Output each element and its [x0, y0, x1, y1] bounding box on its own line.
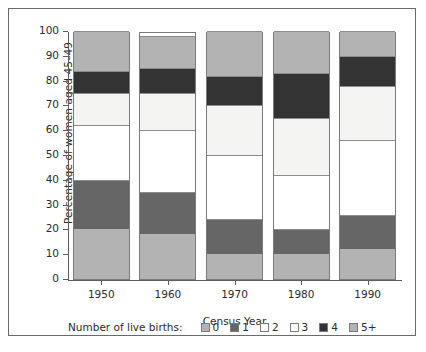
y-tick-label: 80	[46, 74, 59, 86]
legend-label: 4	[331, 322, 338, 333]
stacked-bar[interactable]	[139, 32, 196, 280]
bar-segment[interactable]	[74, 71, 129, 93]
y-tick-label: 20	[46, 222, 59, 234]
bar-segment[interactable]	[340, 56, 395, 86]
x-tick	[368, 280, 369, 285]
bar-segment[interactable]	[274, 118, 329, 175]
bar-segment[interactable]	[207, 105, 262, 155]
bar-segment[interactable]	[340, 249, 395, 279]
bar-segment[interactable]	[74, 93, 129, 125]
y-tick-label: 70	[46, 98, 59, 110]
legend-swatch	[230, 323, 239, 332]
stacked-bar[interactable]	[273, 32, 330, 280]
bar-segment[interactable]	[140, 130, 195, 192]
x-tick-label: 1990	[338, 288, 398, 300]
bar-segment[interactable]	[140, 234, 195, 279]
bar-segment[interactable]	[207, 155, 262, 219]
stacked-bar[interactable]	[73, 32, 130, 280]
y-tick-label: 30	[46, 198, 59, 210]
bar-segment[interactable]	[274, 73, 329, 118]
x-tick-label: 1960	[138, 288, 198, 300]
bar-segment[interactable]	[274, 175, 329, 230]
x-tick	[101, 280, 102, 285]
y-tick-label: 50	[46, 148, 59, 160]
legend-swatch	[201, 323, 210, 332]
y-tick-label: 90	[46, 49, 59, 61]
legend-label: 5+	[361, 322, 376, 333]
legend-swatch	[260, 323, 269, 332]
bar-segment[interactable]	[274, 31, 329, 73]
legend-item[interactable]: 2	[260, 322, 279, 333]
bar-segment[interactable]	[207, 219, 262, 254]
x-tick	[235, 280, 236, 285]
bar-segment[interactable]	[207, 31, 262, 76]
x-tick	[301, 280, 302, 285]
legend-item[interactable]: 1	[230, 322, 249, 333]
y-tick-label: 100	[39, 24, 59, 36]
x-tick	[168, 280, 169, 285]
bar-segment[interactable]	[140, 93, 195, 130]
bars-layer	[68, 32, 401, 280]
y-tick-label: 60	[46, 123, 59, 135]
legend-label: 3	[302, 322, 309, 333]
bar-segment[interactable]	[74, 180, 129, 230]
bar-segment[interactable]	[340, 215, 395, 250]
bar-segment[interactable]	[140, 36, 195, 68]
legend-item[interactable]: 3	[290, 322, 309, 333]
bar-segment[interactable]	[207, 254, 262, 279]
stacked-bar[interactable]	[206, 32, 263, 280]
bar-segment[interactable]	[74, 31, 129, 71]
legend-item[interactable]: 4	[319, 322, 338, 333]
bar-segment[interactable]	[140, 68, 195, 93]
bar-group[interactable]	[73, 32, 130, 280]
bar-group[interactable]	[339, 32, 396, 280]
bar-segment[interactable]	[74, 125, 129, 180]
bar-group[interactable]	[206, 32, 263, 280]
legend-items: 012345+	[201, 322, 377, 333]
chart-container: Percentage of women aged 45–49 010203040…	[0, 0, 426, 352]
bar-segment[interactable]	[207, 76, 262, 106]
stacked-bar[interactable]	[339, 32, 396, 280]
legend-item[interactable]: 0	[201, 322, 220, 333]
x-tick-label: 1950	[71, 288, 131, 300]
bar-segment[interactable]	[74, 229, 129, 279]
legend-label: 2	[272, 322, 279, 333]
bar-group[interactable]	[139, 32, 196, 280]
bar-group[interactable]	[273, 32, 330, 280]
legend-label: 1	[242, 322, 249, 333]
legend-title: Number of live births:	[68, 321, 183, 333]
bar-segment[interactable]	[274, 229, 329, 254]
y-tick-label: 0	[52, 272, 59, 284]
legend: Number of live births: 012345+	[68, 321, 413, 333]
legend-swatch	[319, 323, 328, 332]
bar-segment[interactable]	[340, 31, 395, 56]
x-tick-label: 1980	[271, 288, 331, 300]
y-tick-label: 10	[46, 247, 59, 259]
y-tick-label: 40	[46, 173, 59, 185]
bar-segment[interactable]	[274, 254, 329, 279]
x-tick-label: 1970	[205, 288, 265, 300]
legend-item[interactable]: 5+	[349, 322, 376, 333]
legend-label: 0	[213, 322, 220, 333]
bar-segment[interactable]	[140, 192, 195, 234]
figure-frame: Percentage of women aged 45–49 010203040…	[8, 8, 416, 336]
legend-swatch	[349, 323, 358, 332]
bar-segment[interactable]	[340, 86, 395, 141]
bar-segment[interactable]	[340, 140, 395, 214]
plot-area: 0102030405060708090100 19501960197019801…	[68, 32, 401, 280]
legend-swatch	[290, 323, 299, 332]
